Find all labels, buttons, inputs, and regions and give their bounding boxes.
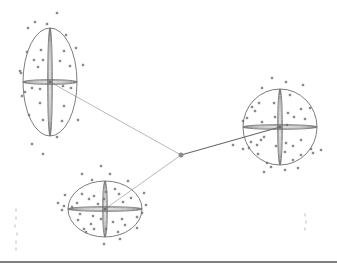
data-point: [256, 144, 258, 146]
data-point: [297, 167, 299, 169]
data-point: [292, 145, 294, 147]
cluster-top-left: [19, 12, 84, 155]
data-point: [112, 221, 114, 223]
data-point: [81, 173, 83, 175]
data-point: [39, 102, 41, 104]
data-point: [65, 34, 67, 36]
data-point: [92, 215, 94, 217]
data-point: [293, 116, 295, 118]
data-point: [82, 64, 84, 66]
hub-node: [179, 153, 184, 158]
data-point: [119, 238, 121, 240]
scan-artifact: [15, 217, 16, 220]
data-point: [124, 224, 126, 226]
data-point: [63, 105, 65, 107]
data-point: [62, 85, 64, 87]
data-point: [31, 143, 33, 145]
data-point: [130, 197, 132, 199]
scan-artifact: [15, 241, 16, 244]
scan-artifact: [15, 248, 16, 251]
data-point: [114, 188, 116, 190]
data-point: [274, 116, 276, 118]
data-point: [136, 227, 138, 229]
data-point: [93, 228, 95, 230]
data-point: [284, 151, 286, 153]
data-point: [312, 152, 314, 154]
data-point: [63, 50, 65, 52]
data-point: [64, 194, 66, 196]
data-point: [97, 203, 99, 205]
data-point: [263, 171, 265, 173]
data-point: [88, 198, 90, 200]
data-point: [246, 117, 248, 119]
data-point: [287, 112, 289, 114]
hub-layer: [179, 153, 184, 158]
data-point: [100, 218, 102, 220]
data-point: [285, 81, 287, 83]
data-point: [232, 144, 234, 146]
data-point: [61, 120, 63, 122]
data-point: [42, 59, 44, 61]
data-point: [24, 91, 26, 93]
diagram-canvas: [0, 0, 337, 266]
data-point: [118, 193, 120, 195]
cluster-diagram: [0, 0, 337, 266]
clusters-layer: [19, 12, 322, 245]
data-point: [109, 173, 111, 175]
scan-artifact: [304, 214, 305, 217]
data-point: [304, 118, 306, 120]
data-point: [284, 169, 286, 171]
data-point: [309, 107, 311, 109]
data-point: [37, 66, 39, 68]
data-point: [61, 209, 63, 211]
data-point: [59, 60, 61, 62]
data-point: [300, 108, 302, 110]
data-point: [275, 145, 277, 147]
data-point: [143, 192, 145, 194]
link-line-cluster-right: [181, 127, 280, 155]
data-point: [77, 219, 79, 221]
data-point: [122, 201, 124, 203]
data-point: [289, 94, 291, 96]
data-point: [57, 202, 59, 204]
cluster-center: [278, 125, 281, 128]
data-point: [263, 136, 265, 138]
data-point: [69, 65, 71, 67]
data-point: [40, 49, 42, 51]
cluster-right: [232, 77, 322, 173]
data-point: [271, 77, 273, 79]
scan-artifact: [15, 209, 16, 212]
data-point: [145, 204, 147, 206]
data-point: [76, 202, 78, 204]
data-point: [27, 27, 29, 29]
scan-artifact: [304, 228, 305, 231]
data-point: [320, 149, 322, 151]
data-point: [34, 21, 36, 23]
data-point: [136, 216, 138, 218]
data-point: [90, 223, 92, 225]
data-point: [285, 142, 287, 144]
data-point: [75, 47, 77, 49]
data-point: [257, 153, 259, 155]
scan-artifact: [16, 233, 17, 236]
data-point: [42, 119, 44, 121]
data-point: [31, 87, 33, 89]
data-point: [100, 165, 102, 167]
data-point: [242, 148, 244, 150]
data-point: [261, 87, 263, 89]
data-point: [250, 141, 252, 143]
data-point: [300, 139, 302, 141]
data-point: [19, 70, 21, 72]
data-point: [121, 218, 123, 220]
cluster-center: [103, 207, 106, 210]
data-point: [93, 195, 95, 197]
decor-layer: [0, 209, 337, 263]
data-point: [251, 106, 253, 108]
data-point: [261, 121, 263, 123]
data-point: [103, 243, 105, 245]
data-point: [91, 179, 93, 181]
data-point: [56, 12, 58, 14]
data-point: [260, 139, 262, 141]
data-point: [81, 193, 83, 195]
data-point: [300, 154, 302, 156]
